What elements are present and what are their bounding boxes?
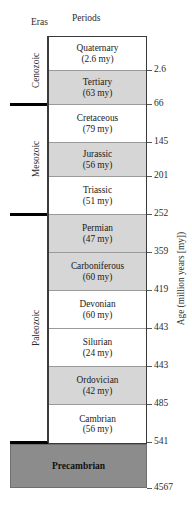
- period-row: Cretaceous(79 my): [49, 105, 146, 143]
- age-tick-label: 2.6: [154, 64, 166, 74]
- period-row: Triassic(51 my): [49, 177, 146, 215]
- period-duration: (56 my): [83, 160, 113, 170]
- period-name: Jurassic: [83, 149, 112, 159]
- period-row: Jurassic(56 my): [49, 143, 146, 177]
- age-tick-mark: [147, 488, 152, 489]
- period-row: Tertiary(63 my): [49, 71, 146, 105]
- period-name: Permian: [82, 223, 113, 233]
- column-header-periods: Periods: [72, 13, 101, 23]
- era-label: Paleozoic: [31, 214, 41, 442]
- age-tick-label: 66: [154, 98, 164, 108]
- age-tick-label: 443: [154, 322, 168, 332]
- age-axis-title: Age (million years [my]): [176, 232, 186, 325]
- age-tick-mark: [147, 290, 152, 291]
- period-name: Cretaceous: [77, 113, 118, 123]
- period-duration: (2.6 my): [81, 54, 113, 64]
- era-label: Mesozoic: [31, 104, 41, 214]
- age-tick-label: 443: [154, 360, 168, 370]
- period-name: Ordovician: [77, 375, 119, 385]
- period-duration: (56 my): [83, 424, 113, 434]
- period-duration: (42 my): [83, 386, 113, 396]
- period-duration: (47 my): [83, 234, 113, 244]
- period-name: Carboniferous: [71, 261, 124, 271]
- period-row: Devonian(60 my): [49, 291, 146, 329]
- period-row: Silurian(24 my): [49, 329, 146, 367]
- period-row: Cambrian(56 my): [49, 405, 146, 443]
- geologic-time-scale-chart: Eras Periods CenozoicMesozoicPaleozoic Q…: [0, 0, 192, 516]
- age-tick-label: 145: [154, 136, 168, 146]
- period-duration: (79 my): [83, 124, 113, 134]
- period-duration: (60 my): [83, 272, 113, 282]
- precambrian-label: Precambrian: [52, 461, 105, 471]
- age-tick-mark: [147, 142, 152, 143]
- age-tick-mark: [147, 442, 152, 443]
- period-duration: (60 my): [83, 310, 113, 320]
- period-row: Permian(47 my): [49, 215, 146, 253]
- period-duration: (63 my): [83, 88, 113, 98]
- age-tick-mark: [147, 404, 152, 405]
- age-tick-label: 485: [154, 398, 168, 408]
- precambrian-bar: Precambrian: [10, 444, 147, 488]
- age-tick-label: 541: [154, 436, 168, 446]
- age-tick-mark: [147, 104, 152, 105]
- period-row: Carboniferous(60 my): [49, 253, 146, 291]
- era-label: Cenozoic: [31, 36, 41, 104]
- period-name: Quaternary: [77, 43, 119, 53]
- period-duration: (24 my): [83, 348, 113, 358]
- age-tick-label: 201: [154, 170, 168, 180]
- column-header-eras: Eras: [31, 17, 48, 27]
- period-name: Triassic: [83, 185, 112, 195]
- period-name: Tertiary: [83, 77, 112, 87]
- periods-column: Quaternary(2.6 my)Tertiary(63 my)Cretace…: [48, 36, 147, 444]
- period-name: Devonian: [79, 299, 115, 309]
- age-tick-mark: [147, 366, 152, 367]
- age-tick-mark: [147, 70, 152, 71]
- age-tick-mark: [147, 328, 152, 329]
- age-tick-label: 419: [154, 284, 168, 294]
- period-name: Cambrian: [79, 414, 116, 424]
- age-tick-label: 252: [154, 208, 168, 218]
- period-name: Silurian: [83, 337, 112, 347]
- period-duration: (51 my): [83, 196, 113, 206]
- period-row: Quaternary(2.6 my): [49, 37, 146, 71]
- age-tick-label: 4567: [154, 482, 173, 492]
- age-tick-mark: [147, 214, 152, 215]
- age-tick-label: 359: [154, 246, 168, 256]
- age-tick-mark: [147, 252, 152, 253]
- age-tick-mark: [147, 176, 152, 177]
- period-row: Ordovician(42 my): [49, 367, 146, 405]
